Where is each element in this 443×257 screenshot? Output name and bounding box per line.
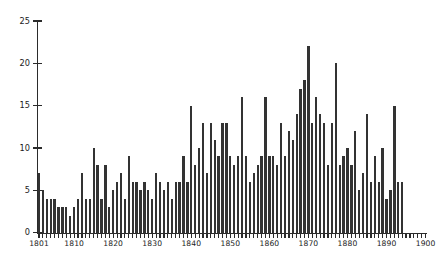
bar bbox=[104, 165, 106, 233]
bar bbox=[354, 131, 356, 233]
bar bbox=[299, 89, 301, 233]
bar bbox=[284, 156, 286, 232]
bar bbox=[233, 165, 235, 233]
bar bbox=[342, 156, 344, 232]
bar bbox=[366, 114, 368, 232]
bar bbox=[178, 182, 180, 233]
bar bbox=[217, 156, 219, 232]
bar bbox=[163, 190, 165, 232]
bar bbox=[237, 156, 239, 232]
bar bbox=[374, 156, 376, 232]
bar bbox=[221, 123, 223, 233]
bar bbox=[253, 173, 255, 232]
bar bbox=[65, 207, 67, 232]
bar bbox=[331, 123, 333, 233]
bar bbox=[202, 123, 204, 233]
bar bbox=[260, 156, 262, 232]
bar bbox=[276, 165, 278, 233]
bar bbox=[319, 114, 321, 232]
bar bbox=[311, 123, 313, 233]
bar bbox=[198, 148, 200, 233]
bar bbox=[292, 140, 294, 233]
bar bbox=[50, 199, 52, 233]
bar bbox=[42, 190, 44, 232]
bar bbox=[307, 46, 309, 232]
bar bbox=[339, 165, 341, 233]
bar bbox=[214, 140, 216, 233]
bar bbox=[147, 190, 149, 232]
bar bbox=[194, 165, 196, 233]
bar bbox=[116, 182, 118, 233]
bar bbox=[155, 173, 157, 232]
bar bbox=[381, 148, 383, 233]
bar bbox=[362, 173, 364, 232]
bar-series bbox=[0, 0, 443, 257]
bar bbox=[241, 97, 243, 232]
bar bbox=[385, 199, 387, 233]
bar bbox=[389, 190, 391, 232]
bar bbox=[69, 216, 71, 233]
bar bbox=[210, 123, 212, 233]
bar bbox=[370, 182, 372, 233]
bar bbox=[171, 199, 173, 233]
bar bbox=[81, 173, 83, 232]
bar bbox=[393, 106, 395, 233]
bar bbox=[350, 165, 352, 233]
bar bbox=[93, 148, 95, 233]
bar bbox=[229, 156, 231, 232]
bar bbox=[327, 165, 329, 233]
bar bbox=[61, 207, 63, 232]
bar bbox=[401, 182, 403, 233]
bar bbox=[190, 106, 192, 233]
bar bbox=[73, 207, 75, 232]
bar bbox=[206, 173, 208, 232]
bar bbox=[120, 173, 122, 232]
bar bbox=[112, 190, 114, 232]
bar bbox=[378, 182, 380, 233]
bar bbox=[167, 182, 169, 233]
bar bbox=[323, 123, 325, 233]
bar bbox=[315, 97, 317, 232]
bar bbox=[124, 199, 126, 233]
bar bbox=[303, 80, 305, 232]
bar bbox=[77, 199, 79, 233]
bar bbox=[151, 199, 153, 233]
bar bbox=[358, 190, 360, 232]
bar bbox=[249, 182, 251, 233]
bar bbox=[96, 165, 98, 233]
bar bbox=[108, 207, 110, 232]
bar bbox=[182, 156, 184, 232]
bar bbox=[335, 63, 337, 232]
bar bbox=[100, 199, 102, 233]
bar bbox=[46, 199, 48, 233]
bar bbox=[280, 123, 282, 233]
bar bbox=[143, 182, 145, 233]
bar bbox=[296, 114, 298, 232]
histogram-chart: 0510152025 18011810182018301840185018601… bbox=[0, 0, 443, 257]
bar bbox=[264, 97, 266, 232]
bar bbox=[139, 190, 141, 232]
bar bbox=[128, 156, 130, 232]
bar bbox=[53, 199, 55, 233]
bar bbox=[257, 165, 259, 233]
bar bbox=[159, 182, 161, 233]
bar bbox=[346, 148, 348, 233]
bar bbox=[89, 199, 91, 233]
bar bbox=[288, 131, 290, 233]
bar bbox=[397, 182, 399, 233]
bar bbox=[132, 182, 134, 233]
bar bbox=[57, 207, 59, 232]
bar bbox=[272, 156, 274, 232]
bar bbox=[268, 156, 270, 232]
bar bbox=[135, 182, 137, 233]
bar bbox=[38, 173, 40, 232]
bar bbox=[186, 182, 188, 233]
bar bbox=[245, 156, 247, 232]
bar bbox=[175, 182, 177, 233]
bar bbox=[225, 123, 227, 233]
bar bbox=[85, 199, 87, 233]
